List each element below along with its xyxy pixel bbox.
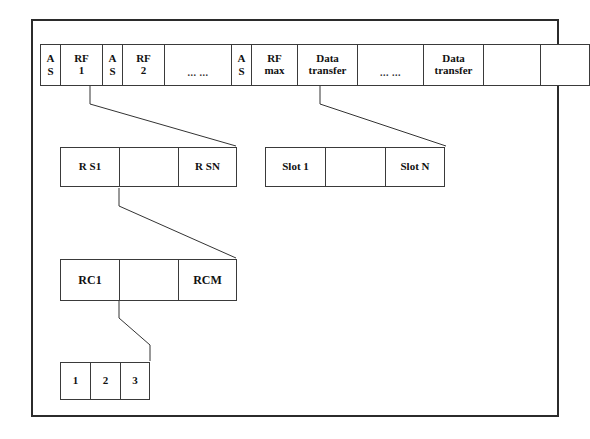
cell-frame-ellipsis-2: ... ... xyxy=(357,44,423,86)
cell-data-transfer-1-label: Data transfer xyxy=(309,53,347,76)
reservation-cycles-row: RC1 RCM xyxy=(60,259,237,301)
cell-mini-2[interactable]: 2 xyxy=(90,362,120,400)
cell-as-1[interactable]: A S xyxy=(40,44,60,86)
frame-ellipsis-1-label: ... ... xyxy=(188,68,209,79)
cell-rc-m[interactable]: RCM xyxy=(178,259,237,301)
frame-ellipsis-2-label: ... ... xyxy=(380,68,401,79)
cell-as-2[interactable]: A S xyxy=(102,44,122,86)
cell-slot-n-label: Slot N xyxy=(400,161,429,173)
cell-rs-middle[interactable] xyxy=(119,147,178,187)
cell-rc-1-label: RC1 xyxy=(78,274,101,287)
cell-mini-3-label: 3 xyxy=(132,375,138,387)
cell-rc-middle[interactable] xyxy=(119,259,178,301)
cell-data-transfer-n[interactable]: Data transfer xyxy=(423,44,483,86)
cell-rs-1-label: R S1 xyxy=(79,161,101,173)
cell-data-transfer-n-label: Data transfer xyxy=(435,53,473,76)
cell-rf-max-label: RF max xyxy=(264,53,284,76)
cell-frame-blank-1[interactable] xyxy=(483,44,540,86)
cell-rc-m-label: RCM xyxy=(193,274,222,287)
cell-slot-middle[interactable] xyxy=(325,147,385,187)
cell-as-2-label: A S xyxy=(109,52,117,77)
cell-rs-n-label: R SN xyxy=(195,161,220,173)
cell-rs-n[interactable]: R SN xyxy=(178,147,237,187)
cell-rc-1[interactable]: RC1 xyxy=(60,259,119,301)
cell-as-3-label: A S xyxy=(238,52,246,77)
cell-rf-2[interactable]: RF 2 xyxy=(122,44,164,86)
cell-frame-blank-2[interactable] xyxy=(540,44,590,86)
cell-frame-ellipsis-1: ... ... xyxy=(164,44,231,86)
cell-rs-1[interactable]: R S1 xyxy=(60,147,119,187)
cell-mini-1-label: 1 xyxy=(73,375,79,387)
cell-mini-3[interactable]: 3 xyxy=(120,362,150,400)
mini-slots-row: 1 2 3 xyxy=(60,362,150,400)
cell-data-transfer-1[interactable]: Data transfer xyxy=(297,44,357,86)
cell-rf-2-label: RF 2 xyxy=(136,53,151,76)
cell-mini-2-label: 2 xyxy=(103,375,109,387)
reservation-slots-row: R S1 R SN xyxy=(60,147,237,187)
frame-timeline-row: A S RF 1 A S RF 2 ... ... A S RF max Dat… xyxy=(40,44,590,86)
cell-slot-1-label: Slot 1 xyxy=(282,161,309,173)
cell-rf-1-label: RF 1 xyxy=(74,53,89,76)
cell-mini-1[interactable]: 1 xyxy=(60,362,90,400)
cell-rf-1[interactable]: RF 1 xyxy=(60,44,102,86)
data-transfer-slots-row: Slot 1 Slot N xyxy=(265,147,445,187)
cell-slot-1[interactable]: Slot 1 xyxy=(265,147,325,187)
cell-slot-n[interactable]: Slot N xyxy=(385,147,445,187)
cell-as-3[interactable]: A S xyxy=(231,44,251,86)
cell-as-1-label: A S xyxy=(47,52,55,77)
cell-rf-max[interactable]: RF max xyxy=(251,44,297,86)
